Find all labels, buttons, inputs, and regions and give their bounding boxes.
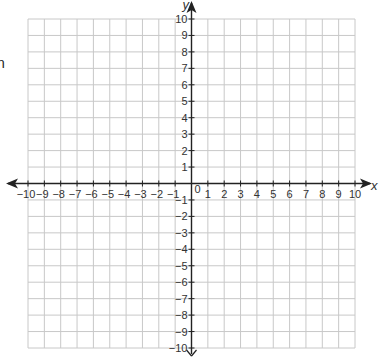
x-tick-label: −2 bbox=[151, 188, 164, 200]
x-tick-label: −5 bbox=[101, 188, 114, 200]
x-tick-label: −3 bbox=[134, 188, 147, 200]
x-tick-label: −4 bbox=[118, 188, 131, 200]
y-tick-label: 8 bbox=[181, 46, 187, 58]
x-tick-label: −9 bbox=[36, 188, 49, 200]
y-tick-label: −6 bbox=[175, 276, 188, 288]
x-tick-label: 2 bbox=[221, 188, 227, 200]
x-tick-label: −10 bbox=[17, 188, 36, 200]
y-tick-label: −4 bbox=[175, 243, 188, 255]
y-tick-label: −10 bbox=[169, 342, 188, 354]
y-tick-label: 1 bbox=[181, 161, 187, 173]
x-tick-label: 7 bbox=[303, 188, 309, 200]
y-tick-label: 6 bbox=[181, 79, 187, 91]
y-tick-label: −7 bbox=[175, 293, 188, 305]
x-tick-label: 6 bbox=[287, 188, 293, 200]
y-tick-label: 2 bbox=[181, 145, 187, 157]
coordinate-plane: −10−9−8−7−6−5−4−3−2−112345678910−10−9−8−… bbox=[0, 0, 379, 357]
y-tick-label: −3 bbox=[175, 227, 188, 239]
origin-label: 0 bbox=[195, 183, 201, 195]
x-tick-label: 10 bbox=[349, 188, 361, 200]
y-tick-label: −5 bbox=[175, 260, 188, 272]
x-tick-label: 3 bbox=[237, 188, 243, 200]
y-tick-label: 4 bbox=[181, 112, 187, 124]
y-tick-label: 3 bbox=[181, 128, 187, 140]
y-tick-label: 9 bbox=[181, 29, 187, 41]
y-tick-label: −2 bbox=[175, 210, 188, 222]
y-tick-label: 10 bbox=[175, 13, 187, 25]
x-axis-label: x bbox=[370, 178, 378, 193]
x-tick-label: 4 bbox=[254, 188, 260, 200]
y-tick-label: 5 bbox=[181, 95, 187, 107]
x-tick-label: 8 bbox=[319, 188, 325, 200]
x-tick-label: −6 bbox=[85, 188, 98, 200]
x-tick-label: 1 bbox=[205, 188, 211, 200]
x-tick-label: 5 bbox=[270, 188, 276, 200]
y-tick-label: −1 bbox=[175, 194, 188, 206]
y-tick-label: −8 bbox=[175, 309, 188, 321]
y-tick-label: −9 bbox=[175, 326, 188, 338]
x-tick-label: 9 bbox=[336, 188, 342, 200]
x-tick-label: −8 bbox=[52, 188, 65, 200]
x-tick-label: −7 bbox=[69, 188, 82, 200]
y-tick-label: 7 bbox=[181, 62, 187, 74]
